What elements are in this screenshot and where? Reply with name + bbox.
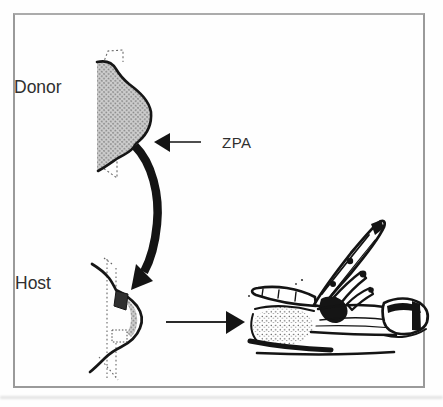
result-arrow-icon: [166, 311, 245, 334]
zpa-arrow-icon: [154, 133, 201, 152]
diagram-art: [0, 0, 443, 407]
limb-proximal-stipple: [253, 307, 313, 345]
figure-canvas: Donor Host ZPA: [0, 0, 443, 407]
duplicated-limb-drawing: [248, 220, 428, 354]
graft-transfer-arrow-icon: [131, 146, 158, 290]
grafted-zpa-block: [114, 291, 128, 310]
scan-artifact: [0, 396, 443, 399]
host-zpa-dotted-box: [112, 330, 127, 342]
